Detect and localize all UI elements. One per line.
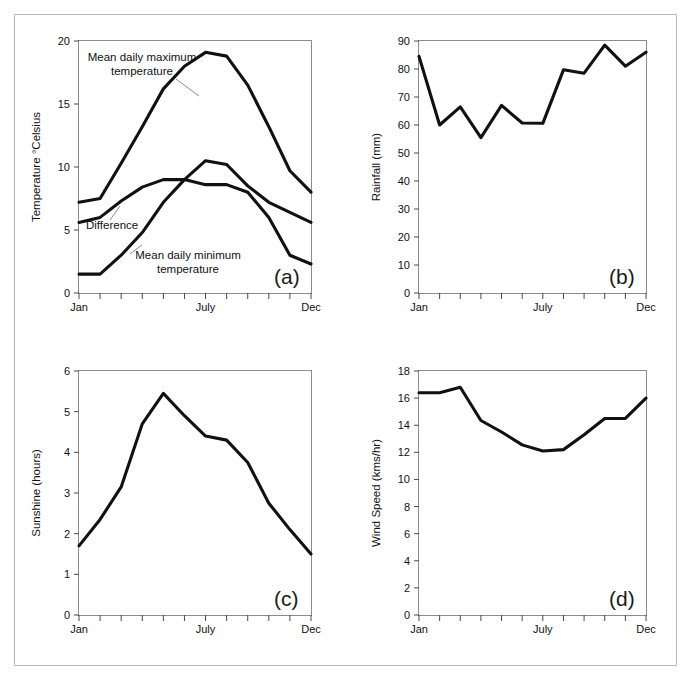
y-ticks-c: 0123456 [64,365,79,621]
y-axis-title-c: Sunshine (hours) [30,449,42,537]
panel-wind-speed: 024681012141618 JanJulyDec (d) Wind Spee… [366,356,676,656]
y-tick-label-d-10: 10 [398,473,410,485]
y-tick-label-d-6: 6 [404,528,410,540]
y-tick-label-d-0: 0 [404,609,410,621]
y-tick-label-b-20: 20 [398,231,410,243]
x-ticks-c: JanJulyDec [70,615,321,635]
panel-label-a: (a) [274,265,300,288]
x-tick-label-d-July: July [533,623,553,635]
wind-speed-chart-svg: 024681012141618 JanJulyDec (d) Wind Spee… [366,356,676,656]
plot-frame-b [419,41,647,294]
y-tick-label-d-12: 12 [398,446,410,458]
x-tick-label-b-Jan: Jan [410,301,428,313]
y-tick-label-a-5: 5 [64,224,70,236]
y-axis-title-b: Rainfall (mm) [370,133,382,202]
y-tick-label-d-18: 18 [398,365,410,377]
y-tick-label-b-50: 50 [398,147,410,159]
y-ticks-d: 024681012141618 [398,365,419,621]
series-c [79,393,311,554]
y-tick-label-b-70: 70 [398,91,410,103]
y-ticks-b: 0102030405060708090 [398,35,419,299]
y-tick-label-a-20: 20 [58,35,70,47]
y-tick-label-c-6: 6 [64,365,70,377]
x-ticks-b: JanJulyDec [410,293,656,313]
panel-label-b: (b) [609,265,635,288]
y-tick-label-b-10: 10 [398,259,410,271]
sunshine-chart-svg: 0123456 JanJulyDec (c) Sunshine (hours) [26,356,346,656]
annotation-difference: Difference [86,219,138,231]
panel-sunshine: 0123456 JanJulyDec (c) Sunshine (hours) [26,356,346,656]
x-tick-label-c-Jan: Jan [70,623,88,635]
rainfall-chart-svg: 0102030405060708090 JanJulyDec (b) Rainf… [366,26,676,336]
y-tick-label-c-4: 4 [64,446,70,458]
y-tick-label-b-60: 60 [398,119,410,131]
y-ticks-a: 05101520 [58,35,79,299]
y-tick-label-b-90: 90 [398,35,410,47]
x-ticks-d: JanJulyDec [410,615,656,635]
y-axis-title-d: Wind Speed (kms/hr) [370,439,382,547]
y-tick-label-d-8: 8 [404,501,410,513]
panel-label-c: (c) [274,587,299,610]
x-tick-label-d-Jan: Jan [410,623,428,635]
panel-rainfall: 0102030405060708090 JanJulyDec (b) Rainf… [366,26,676,336]
series-a [79,52,311,274]
panel-label-d: (d) [609,587,635,610]
temperature-chart-svg: 05101520 JanJulyDec Mean daily maximum t… [26,26,346,336]
x-tick-label-b-July: July [533,301,553,313]
y-tick-label-c-2: 2 [64,528,70,540]
y-tick-label-b-0: 0 [404,287,410,299]
annotation-max-line1: Mean daily maximum [88,51,197,63]
x-tick-label-d-Dec: Dec [636,623,656,635]
x-tick-label-b-Dec: Dec [636,301,656,313]
y-tick-label-a-10: 10 [58,161,70,173]
series-line-c-0 [79,393,311,554]
series-line-d-0 [419,387,646,451]
y-tick-label-b-80: 80 [398,63,410,75]
y-tick-label-a-0: 0 [64,287,70,299]
x-tick-label-a-July: July [196,301,216,313]
y-tick-label-c-3: 3 [64,487,70,499]
y-tick-label-d-2: 2 [404,582,410,594]
x-tick-label-a-Dec: Dec [301,301,321,313]
leader-max [176,79,199,96]
y-tick-label-c-0: 0 [64,609,70,621]
y-tick-label-a-15: 15 [58,98,70,110]
x-tick-label-a-Jan: Jan [70,301,88,313]
y-tick-label-b-30: 30 [398,203,410,215]
panel-temperature: 05101520 JanJulyDec Mean daily maximum t… [26,26,346,336]
y-axis-title-a: Temperature °Celsius [30,112,42,222]
plot-frame-d [419,371,647,616]
series-line-b-0 [419,45,646,137]
y-tick-label-d-4: 4 [404,555,410,567]
y-tick-label-b-40: 40 [398,175,410,187]
y-tick-label-d-16: 16 [398,392,410,404]
series-line-a-1 [79,161,311,223]
x-tick-label-c-Dec: Dec [301,623,321,635]
y-tick-label-c-5: 5 [64,406,70,418]
climate-figure: 05101520 JanJulyDec Mean daily maximum t… [0,0,691,680]
y-tick-label-d-14: 14 [398,419,410,431]
annotation-min-line2: temperature [157,263,219,275]
annotation-min-line1: Mean daily minimum [135,249,240,261]
x-ticks-a: JanJulyDec [70,293,321,313]
series-d [419,387,646,451]
annotation-max-line2: temperature [111,65,173,77]
y-tick-label-c-1: 1 [64,568,70,580]
series-b [419,45,646,137]
plot-frame-c [79,371,312,616]
x-tick-label-c-July: July [196,623,216,635]
